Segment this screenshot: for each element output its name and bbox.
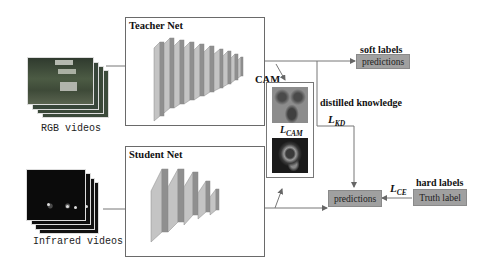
truth-label-box: Truth label — [413, 189, 467, 206]
student-cam-heatmap — [272, 138, 308, 173]
distilled-knowledge-label: distilled knowledge — [320, 97, 402, 108]
cam-loss-label: LCAM — [280, 124, 303, 138]
kd-loss-label: LKD — [328, 113, 345, 128]
rgb-videos-caption: RGB videos — [41, 123, 101, 134]
teacher-cam-heatmap — [272, 87, 308, 123]
cam-panel: LCAM — [266, 82, 314, 178]
student-predictions-box: predictions — [328, 190, 382, 207]
infrared-videos-caption: Infrared videos — [33, 236, 123, 247]
soft-predictions-box: predictions — [356, 54, 410, 69]
ce-loss-label: LCE — [390, 182, 407, 197]
hard-labels-title: hard labels — [416, 177, 464, 188]
